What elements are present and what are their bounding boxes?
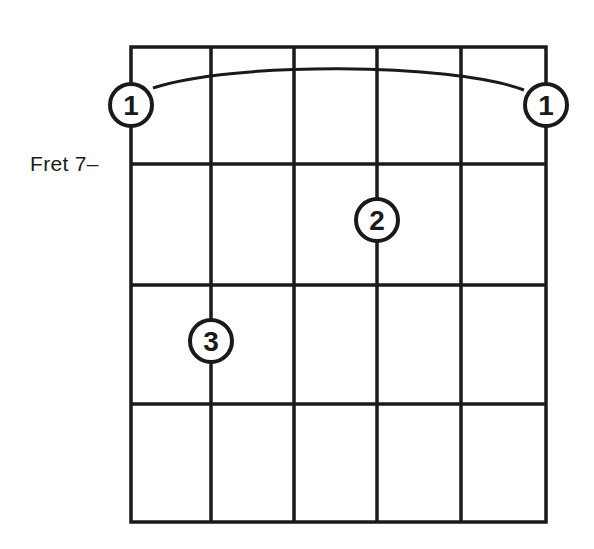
finger-number: 1 xyxy=(538,90,554,121)
finger-marker: 1 xyxy=(525,84,567,126)
finger-number: 1 xyxy=(123,90,139,121)
finger-number: 3 xyxy=(203,326,219,357)
finger-marker: 3 xyxy=(190,320,232,362)
finger-marker: 2 xyxy=(356,199,398,241)
barre-arc xyxy=(153,69,524,90)
finger-marker: 1 xyxy=(110,84,152,126)
finger-number: 2 xyxy=(369,205,385,236)
fret-position-label: Fret 7– xyxy=(30,152,99,176)
fretboard-grid xyxy=(131,47,546,522)
chord-diagram: 1 1 2 3 xyxy=(0,0,594,549)
